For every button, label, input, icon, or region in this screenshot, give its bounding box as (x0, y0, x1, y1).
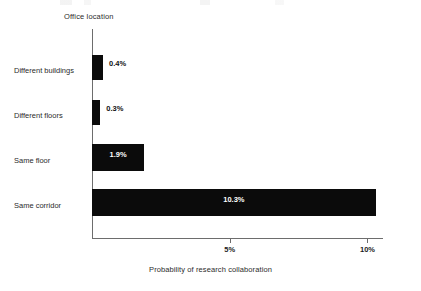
x-axis-line (92, 238, 383, 239)
bar-different-buildings (92, 55, 103, 80)
x-axis-title: Probability of research collaboration (0, 265, 421, 274)
category-label-different-buildings: Different buildings (14, 66, 74, 75)
bar-value-different-floors: 0.3% (106, 104, 123, 113)
bar-different-floors (92, 100, 100, 125)
x-tick-label-10: 10% (360, 245, 375, 254)
plot-area: 0.4% 0.3% 1.9% 10.3% (92, 29, 384, 238)
bar-value-same-floor: 1.9% (110, 150, 127, 159)
bar-row: 10.3% (92, 182, 384, 234)
x-tick-label-5: 5% (224, 245, 235, 254)
category-label-different-floors: Different floors (14, 111, 63, 120)
category-label-same-corridor: Same corridor (14, 201, 61, 210)
bar-value-same-corridor: 10.3% (223, 195, 244, 204)
bar-chart-figure: Office location Different buildings Diff… (0, 0, 421, 291)
x-tick-5 (230, 238, 231, 243)
category-label-same-floor: Same floor (14, 156, 50, 165)
bar-value-different-buildings: 0.4% (109, 59, 126, 68)
x-tick-10 (367, 238, 368, 243)
scan-artifact (60, 0, 360, 5)
y-axis-title: Office location (64, 12, 114, 21)
